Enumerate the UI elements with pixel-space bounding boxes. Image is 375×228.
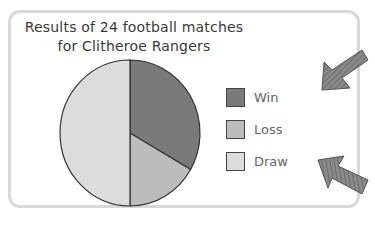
legend-swatch-draw <box>226 152 245 171</box>
pie-chart <box>58 58 204 208</box>
legend-label-win: Win <box>254 90 278 105</box>
arrow-down-left-icon <box>318 48 370 94</box>
chart-legend: Win Loss Draw <box>226 86 288 182</box>
chart-title-line-1: Results of 24 football matches <box>14 18 254 37</box>
chart-title: Results of 24 football matches for Clith… <box>14 18 254 56</box>
legend-item-win: Win <box>226 86 288 108</box>
legend-swatch-win <box>226 88 245 107</box>
legend-swatch-loss <box>226 120 245 139</box>
pie-slice-draw <box>60 60 130 206</box>
arrow-up-left-icon <box>316 154 372 198</box>
chart-title-line-2: for Clitheroe Rangers <box>14 37 254 56</box>
legend-label-draw: Draw <box>254 154 288 169</box>
legend-item-draw: Draw <box>226 150 288 172</box>
legend-item-loss: Loss <box>226 118 288 140</box>
legend-label-loss: Loss <box>254 122 283 137</box>
